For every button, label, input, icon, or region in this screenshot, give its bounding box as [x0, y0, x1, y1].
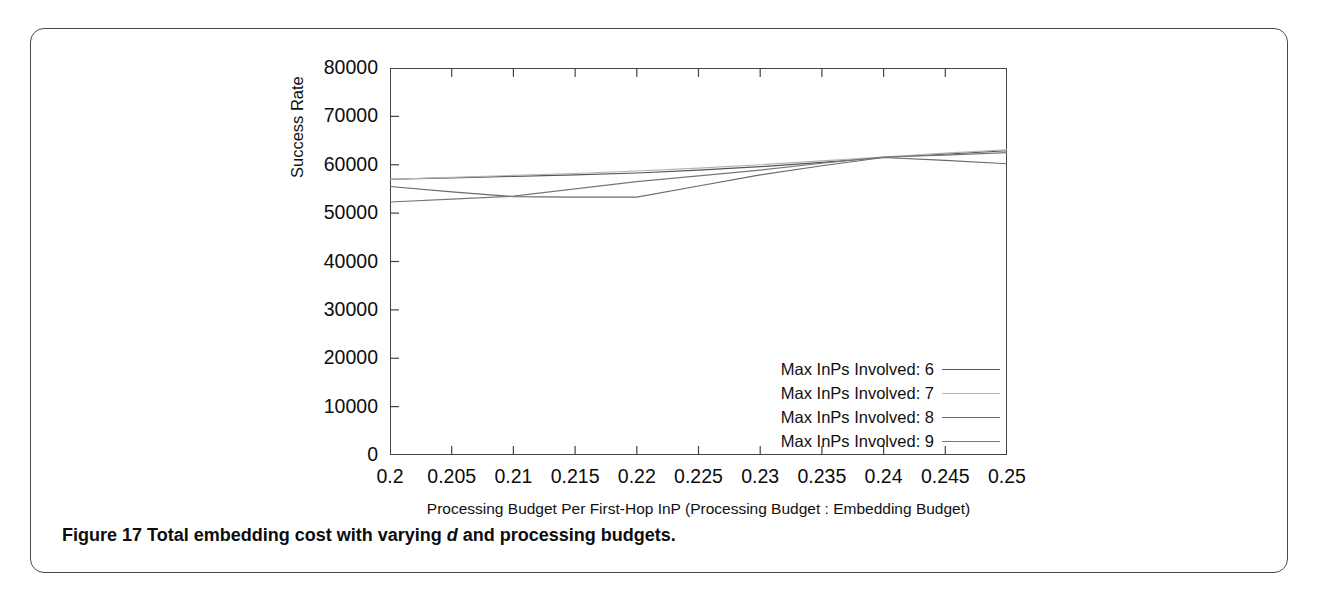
- caption-label: Figure 17: [62, 525, 142, 545]
- figure-caption: Figure 17 Total embedding cost with vary…: [62, 525, 676, 546]
- caption-text-before: Total embedding cost with varying: [147, 525, 442, 545]
- caption-text-after: and processing budgets.: [463, 525, 676, 545]
- figure-container: [30, 28, 1288, 573]
- caption-italic-variable: d: [447, 525, 458, 545]
